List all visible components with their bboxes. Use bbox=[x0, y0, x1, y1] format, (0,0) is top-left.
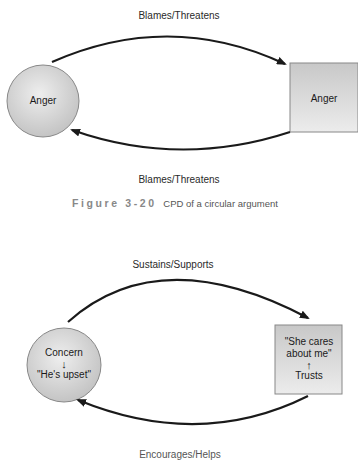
hes-upset-text: "He's upset" bbox=[37, 369, 91, 381]
square-label-2: "She cares about me" ↑ Trusts bbox=[285, 336, 334, 382]
top-edge-label-2: Sustains/Supports bbox=[132, 259, 213, 270]
top-edge-label-1: Blames/Threatens bbox=[138, 10, 219, 21]
down-arrow-icon: ↓ bbox=[37, 359, 91, 369]
bottom-arrow-1 bbox=[72, 130, 290, 150]
circle-label-1: Anger bbox=[30, 95, 57, 107]
circle-label-2: Concern ↓ "He's upset" bbox=[37, 347, 91, 381]
trusts-text: Trusts bbox=[285, 370, 334, 382]
she-cares-text-1: "She cares bbox=[285, 336, 334, 348]
caption-text: CPD of a circular argument bbox=[163, 198, 278, 209]
bottom-edge-label-2-cut: Encourages/Helps bbox=[139, 449, 221, 460]
bottom-edge-label-1: Blames/Threatens bbox=[138, 174, 219, 185]
top-arrow-1 bbox=[52, 36, 285, 64]
bottom-arrow-2 bbox=[78, 396, 308, 424]
figure-number: Figure 3-20 bbox=[72, 197, 157, 209]
up-arrow-icon: ↑ bbox=[285, 360, 334, 370]
figure-caption: Figure 3-20 CPD of a circular argument bbox=[72, 197, 278, 209]
square-label-1: Anger bbox=[311, 93, 338, 105]
top-arrow-2 bbox=[68, 280, 308, 322]
